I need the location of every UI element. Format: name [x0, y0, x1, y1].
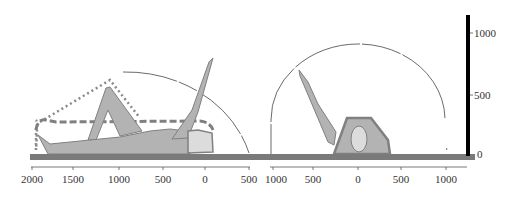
- v-tick-0: 0: [477, 148, 483, 160]
- front-tick-500-left: 500: [305, 173, 322, 185]
- side-tick-1500: 1500: [62, 173, 85, 185]
- front-tick-500-right: 500: [393, 173, 410, 185]
- bent-leg: [88, 87, 142, 140]
- v-tick-1000: 1000: [474, 27, 497, 39]
- head-front: [351, 126, 367, 152]
- front-tick-1000-left: 1000: [265, 173, 288, 185]
- side-tick-2000: 2000: [21, 173, 44, 185]
- vertical-scale-ticks: 1000 500 0: [470, 27, 497, 160]
- front-tick-1000-right: 1000: [435, 173, 458, 185]
- side-view: [36, 58, 249, 154]
- vertical-scale-bar: [466, 15, 470, 156]
- head-side: [188, 130, 213, 153]
- front-raised-arm: [299, 70, 336, 145]
- side-x-axis: 2000 1500 1000 500 0 500: [21, 167, 258, 185]
- front-x-axis: 1000 500 0 500 1000: [265, 167, 467, 185]
- front-tick-0: 0: [355, 173, 361, 185]
- front-view: [271, 44, 447, 154]
- lying-body: [38, 129, 190, 154]
- floor-bar: [30, 154, 475, 160]
- v-tick-500: 500: [474, 89, 491, 101]
- side-tick-1000: 1000: [108, 173, 131, 185]
- raised-arm: [172, 58, 213, 139]
- side-tick-0: 0: [202, 173, 208, 185]
- side-tick-500: 500: [155, 173, 172, 185]
- reach-diagram: 1000 500 0 2000 1500 1000 500 0 500 1000…: [0, 0, 521, 199]
- side-tick-500-pos: 500: [241, 173, 258, 185]
